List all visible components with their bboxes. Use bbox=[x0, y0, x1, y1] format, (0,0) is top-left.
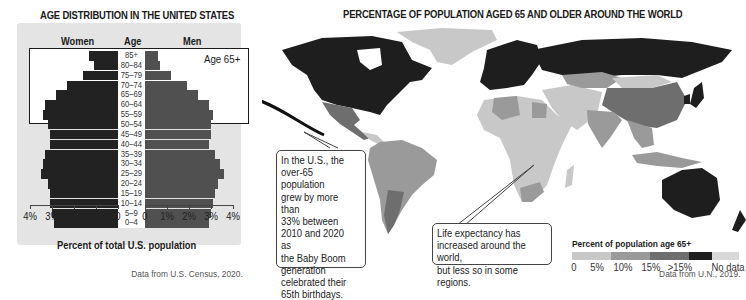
indonesia bbox=[632, 152, 702, 168]
men-bar bbox=[145, 81, 187, 91]
korea bbox=[684, 94, 690, 104]
pyramid-title: AGE DISTRIBUTION IN THE UNITED STATES bbox=[40, 9, 234, 21]
x-axis-label: Percent of total U.S. population bbox=[57, 239, 196, 251]
women-axis-tick bbox=[30, 205, 31, 209]
japan bbox=[690, 82, 704, 108]
age-label: 0–4 bbox=[119, 217, 143, 227]
legend-swatch-no-data bbox=[712, 252, 739, 260]
legend-title: Percent of population age 65+ bbox=[572, 238, 691, 249]
age-label: 50–54 bbox=[119, 119, 143, 129]
egypt bbox=[532, 102, 547, 118]
men-bar bbox=[145, 130, 211, 140]
women-bar bbox=[50, 130, 118, 140]
age-label: 65–69 bbox=[119, 89, 143, 99]
men-header: Men bbox=[183, 35, 201, 47]
women-bar bbox=[50, 189, 118, 199]
men-bar bbox=[145, 90, 198, 100]
women-bar bbox=[94, 61, 118, 71]
men-axis-tick-label: 1% bbox=[160, 210, 174, 222]
callout-us-growth: In the U.S., the over-65 population grew… bbox=[276, 150, 366, 268]
women-bar bbox=[67, 81, 118, 91]
arrow-to-pyramid bbox=[262, 98, 324, 135]
women-axis-tick-label: 2% bbox=[67, 210, 81, 222]
women-bar bbox=[48, 179, 118, 189]
men-bar bbox=[145, 159, 220, 169]
age-label: 5–9 bbox=[119, 208, 143, 218]
women-axis-tick-label: 4% bbox=[23, 210, 37, 222]
callout-us-text: In the U.S., the over-65 population grew… bbox=[281, 154, 353, 300]
men-bar bbox=[145, 199, 213, 209]
men-bar bbox=[145, 179, 218, 189]
europe bbox=[480, 40, 542, 90]
men-axis-tick-label: 3% bbox=[204, 210, 218, 222]
men-axis-tick-label: 4% bbox=[226, 210, 240, 222]
men-bar bbox=[145, 169, 224, 179]
legend-swatch bbox=[572, 252, 611, 260]
age-label: 35–39 bbox=[119, 149, 143, 159]
men-bar bbox=[145, 100, 209, 110]
census-source: Data from U.S. Census, 2020. bbox=[131, 268, 243, 279]
men-bar bbox=[145, 110, 213, 120]
russia bbox=[532, 38, 732, 78]
women-axis-tick-label: 1% bbox=[89, 210, 103, 222]
legend-swatch bbox=[611, 252, 650, 260]
women-bar bbox=[43, 110, 118, 120]
age-label: 25–29 bbox=[119, 168, 143, 178]
greenland bbox=[397, 28, 497, 65]
age-label: 55–59 bbox=[119, 109, 143, 119]
age-label: 80–84 bbox=[119, 60, 143, 70]
india bbox=[587, 110, 622, 148]
age-label: 60–64 bbox=[119, 99, 143, 109]
men-axis-tick bbox=[211, 205, 212, 209]
un-source: Data from U.N., 2019. bbox=[659, 268, 740, 279]
men-bar bbox=[145, 120, 211, 130]
men-bar bbox=[145, 140, 209, 150]
legend-label: 10% bbox=[614, 261, 633, 273]
women-bar bbox=[83, 71, 118, 81]
men-bar bbox=[145, 61, 160, 71]
men-axis-tick bbox=[145, 205, 146, 209]
women-axis-tick bbox=[96, 205, 97, 209]
argentina bbox=[384, 190, 404, 234]
men-axis-tick-label: 2% bbox=[182, 210, 196, 222]
women-bar bbox=[50, 199, 118, 209]
legend-swatch bbox=[650, 252, 689, 260]
age-label: 40–44 bbox=[119, 139, 143, 149]
legend-label: 0 bbox=[571, 261, 576, 273]
madagascar bbox=[565, 165, 574, 188]
age-label: 45–49 bbox=[119, 129, 143, 139]
callout-life-expectancy: Life expectancy has increased around the… bbox=[432, 223, 552, 265]
age-label: 10–14 bbox=[119, 198, 143, 208]
women-bar bbox=[89, 51, 118, 61]
men-axis-tick-label: 0 bbox=[142, 210, 147, 222]
new-zealand bbox=[732, 210, 746, 232]
women-bar bbox=[48, 120, 118, 130]
women-axis-tick-label: 0 bbox=[115, 210, 120, 222]
women-bar bbox=[52, 209, 118, 219]
women-header: Women bbox=[61, 35, 94, 47]
men-bar bbox=[145, 71, 171, 81]
men-bar bbox=[145, 150, 215, 160]
age-label: 70–74 bbox=[119, 80, 143, 90]
age-label: 30–34 bbox=[119, 158, 143, 168]
men-axis-tick bbox=[167, 205, 168, 209]
age-label: 20–24 bbox=[119, 178, 143, 188]
map-title: PERCENTAGE OF POPULATION AGED 65 AND OLD… bbox=[343, 8, 683, 20]
legend-label: 5% bbox=[590, 261, 604, 273]
north-america bbox=[282, 36, 432, 115]
women-bar bbox=[45, 150, 118, 160]
women-bar bbox=[45, 100, 118, 110]
men-axis-tick bbox=[189, 205, 190, 209]
women-bar bbox=[54, 218, 118, 228]
age-label: 15–19 bbox=[119, 188, 143, 198]
men-bar bbox=[145, 218, 209, 228]
women-bar bbox=[50, 140, 118, 150]
women-axis-tick bbox=[118, 205, 119, 209]
age-label: 85+ bbox=[119, 50, 143, 60]
women-bar bbox=[41, 169, 118, 179]
men-bar bbox=[145, 51, 158, 61]
men-bar bbox=[145, 209, 211, 219]
women-axis-tick-label: 3% bbox=[45, 210, 59, 222]
women-bar bbox=[43, 159, 118, 169]
legend-label: 15% bbox=[642, 261, 661, 273]
